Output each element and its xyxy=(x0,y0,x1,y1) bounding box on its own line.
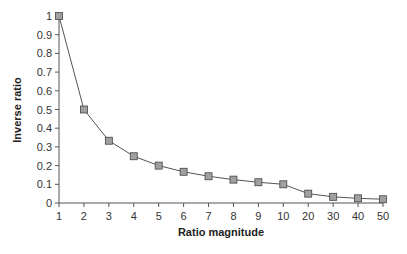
data-point-marker xyxy=(56,13,63,20)
x-tick-label: 10 xyxy=(277,210,289,222)
data-point-marker xyxy=(105,137,112,144)
data-point-marker xyxy=(305,190,312,197)
data-point-marker xyxy=(80,106,87,113)
y-tick-label: 0.3 xyxy=(37,141,52,153)
x-tick-label: 30 xyxy=(327,210,339,222)
y-tick-label: 0.4 xyxy=(37,122,52,134)
y-tick-label: 0.9 xyxy=(37,29,52,41)
y-axis-title: Inverse ratio xyxy=(11,77,23,143)
data-point-marker xyxy=(255,179,262,186)
data-point-marker xyxy=(130,153,137,160)
y-tick-label: 0.1 xyxy=(37,178,52,190)
x-tick-label: 2 xyxy=(81,210,87,222)
data-point-marker xyxy=(230,176,237,183)
x-tick-label: 1 xyxy=(56,210,62,222)
y-tick-label: 0 xyxy=(46,197,52,209)
data-point-marker xyxy=(155,162,162,169)
series-line xyxy=(59,16,383,199)
data-point-marker xyxy=(380,196,387,203)
x-tick-label: 40 xyxy=(352,210,364,222)
y-tick-label: 0.6 xyxy=(37,85,52,97)
x-axis: 1234567891020304050 xyxy=(56,203,389,222)
x-tick-label: 3 xyxy=(106,210,112,222)
y-axis: 00.10.20.30.40.50.60.70.80.91 xyxy=(37,10,59,209)
y-tick-label: 0.8 xyxy=(37,47,52,59)
data-series xyxy=(56,13,387,203)
x-axis-title: Ratio magnitude xyxy=(178,226,264,238)
data-point-marker xyxy=(355,195,362,202)
x-tick-label: 4 xyxy=(131,210,137,222)
x-tick-label: 20 xyxy=(302,210,314,222)
y-tick-label: 1 xyxy=(46,10,52,22)
y-tick-label: 0.2 xyxy=(37,160,52,172)
x-tick-label: 7 xyxy=(205,210,211,222)
data-point-marker xyxy=(280,181,287,188)
x-tick-label: 5 xyxy=(156,210,162,222)
data-point-marker xyxy=(180,168,187,175)
x-tick-label: 9 xyxy=(255,210,261,222)
data-point-marker xyxy=(205,173,212,180)
x-tick-label: 50 xyxy=(377,210,389,222)
data-point-marker xyxy=(330,193,337,200)
x-tick-label: 6 xyxy=(181,210,187,222)
y-tick-label: 0.7 xyxy=(37,66,52,78)
y-tick-label: 0.5 xyxy=(37,104,52,116)
x-tick-label: 8 xyxy=(230,210,236,222)
line-chart: 00.10.20.30.40.50.60.70.80.91 1234567891… xyxy=(0,0,407,254)
